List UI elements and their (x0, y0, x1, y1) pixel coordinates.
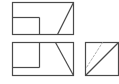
top-view-edge-line (58, 3, 74, 35)
front-view-edge-line (56, 43, 74, 76)
top-view (13, 3, 74, 35)
orthographic-drawing (0, 0, 119, 84)
top-view-outline (13, 3, 74, 35)
drawing-svg (0, 0, 119, 84)
front-view (13, 43, 74, 76)
side-view (86, 43, 119, 76)
side-view-edge-line (86, 43, 119, 76)
side-view-hidden-line (87, 43, 103, 68)
